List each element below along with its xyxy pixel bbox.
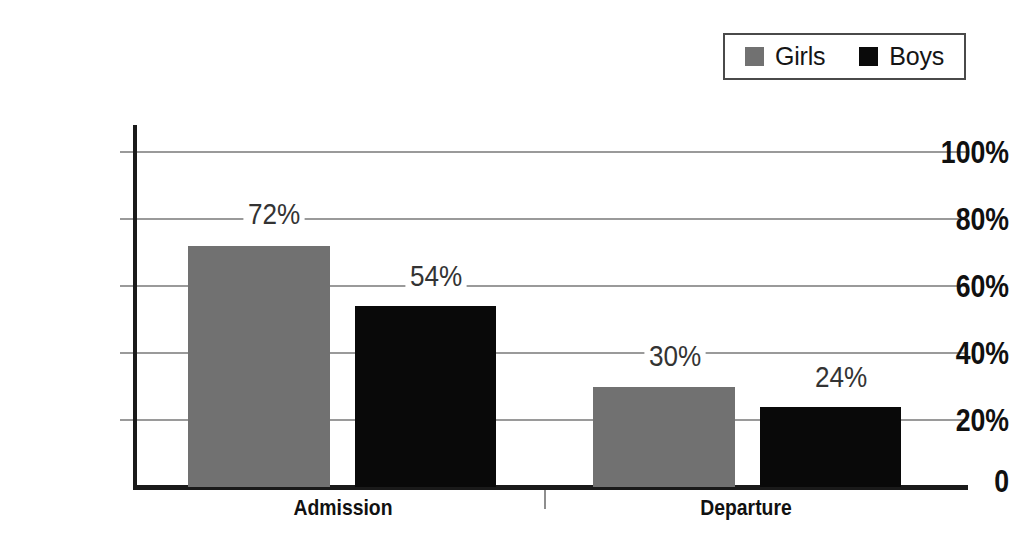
x-axis-group-tick [544,490,546,509]
bar-boys-admission[interactable] [355,306,496,487]
x-category-label-departure: Departure [684,497,807,519]
bar-boys-departure[interactable] [760,407,901,487]
x-category-label-admission: Admission [281,497,404,519]
value-label-boys-departure: 24% [810,363,871,392]
chart-canvas: Girls Boys 100% 80% 60% 40% 20% 0 [0,0,1009,556]
value-label-girls-departure: 30% [644,342,705,371]
bar-girls-admission[interactable] [188,246,330,487]
bar-girls-departure[interactable] [593,387,735,487]
bars-layer [0,0,1009,487]
plot-area: 100% 80% 60% 40% 20% 0 72% 54% 30% 24% A… [0,0,1009,556]
value-label-boys-admission: 54% [405,262,466,291]
value-label-girls-admission: 72% [243,200,304,229]
